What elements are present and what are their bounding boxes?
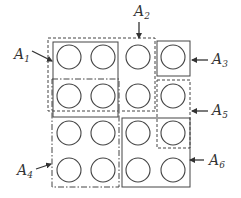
circle-node <box>126 84 150 108</box>
region-label-a2: A2 <box>132 3 150 21</box>
circle-node <box>91 84 115 108</box>
block-partition-diagram: A1A2A3A4A5A6 <box>0 0 241 198</box>
circle-node <box>91 45 115 69</box>
circle-node <box>57 158 81 182</box>
circle-node <box>57 84 81 108</box>
circle-node <box>91 121 115 145</box>
circle-node <box>126 121 150 145</box>
circle-node <box>161 121 185 145</box>
circle-node <box>161 45 185 69</box>
region-label-a4: A4 <box>15 162 33 180</box>
region-label-a3: A3 <box>210 51 228 69</box>
arrow-icon <box>32 51 52 61</box>
circle-node <box>57 121 81 145</box>
region-box-a2 <box>48 38 155 111</box>
region-label-a6: A6 <box>207 152 225 170</box>
circle-node <box>91 158 115 182</box>
circle-node <box>126 45 150 69</box>
circle-node <box>161 84 185 108</box>
region-boxes <box>48 38 190 187</box>
circle-node <box>57 45 81 69</box>
region-label-a1: A1 <box>12 46 30 64</box>
circle-grid <box>57 45 185 182</box>
region-label-a5: A5 <box>210 102 228 120</box>
arrow-icon <box>36 164 51 169</box>
region-box-a4 <box>52 79 119 187</box>
region-labels: A1A2A3A4A5A6 <box>12 3 228 180</box>
region-box-a6 <box>122 118 190 187</box>
circle-node <box>126 158 150 182</box>
circle-node <box>161 158 185 182</box>
